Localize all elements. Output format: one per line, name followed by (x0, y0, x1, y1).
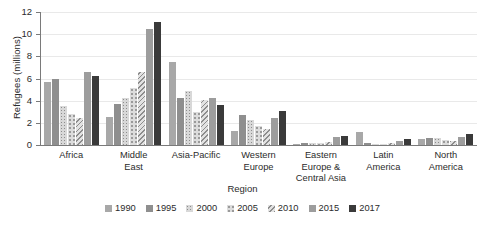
legend-label: 2015 (319, 203, 340, 213)
legend-label: 2017 (359, 203, 380, 213)
bar-group (40, 12, 102, 145)
bar-2015 (458, 137, 465, 145)
bar-chart: Refugees (millions) 024681012 AfricaMidd… (0, 0, 485, 229)
plot-area: 024681012 (40, 12, 477, 145)
x-axis-title: Region (0, 183, 485, 194)
bar-2010 (201, 100, 208, 145)
bar-1995 (52, 79, 59, 146)
bar-1995 (177, 98, 184, 145)
legend-item-2017[interactable]: 2017 (349, 203, 380, 213)
bar-group (352, 12, 414, 145)
legend-item-2010[interactable]: 2010 (268, 203, 299, 213)
bar-2015 (84, 72, 91, 145)
bar-2015 (396, 141, 403, 145)
bar-1990 (169, 62, 176, 145)
legend-label: 2005 (237, 203, 258, 213)
bar-2017 (217, 105, 224, 145)
bar-1990 (231, 131, 238, 145)
bar-2017 (466, 134, 473, 145)
x-axis-label: North America (415, 150, 477, 173)
x-axis-label: Eastern Europe & Central Asia (290, 150, 352, 185)
bar-2005 (380, 144, 387, 145)
bar-2005 (442, 140, 449, 145)
bar-2010 (388, 143, 395, 145)
y-axis-tick-label: 4 (10, 96, 32, 106)
legend-swatch-icon (349, 205, 356, 212)
chart-legend: 1990199520002005201020152017 (0, 203, 485, 213)
bar-2000 (309, 143, 316, 145)
bar-2010 (450, 141, 457, 145)
bar-1990 (44, 82, 51, 145)
bar-2000 (247, 120, 254, 145)
bar-1990 (356, 132, 363, 145)
bar-2005 (68, 114, 75, 145)
bar-2015 (209, 98, 216, 145)
bar-1995 (301, 143, 308, 145)
bar-2015 (333, 137, 340, 145)
bar-2000 (185, 91, 192, 145)
bar-2005 (317, 143, 324, 145)
bar-1995 (239, 115, 246, 145)
bar-group (227, 12, 289, 145)
bar-1995 (426, 138, 433, 145)
bar-2005 (255, 126, 262, 145)
bar-1995 (364, 143, 371, 145)
bar-2010 (263, 129, 270, 145)
legend-item-1990[interactable]: 1990 (105, 203, 136, 213)
legend-swatch-icon (227, 205, 234, 212)
legend-swatch-icon (146, 205, 153, 212)
bar-2017 (404, 139, 411, 145)
bar-2010 (138, 72, 145, 145)
bar-2015 (146, 29, 153, 145)
y-axis-tick (36, 145, 40, 146)
bar-2010 (325, 142, 332, 145)
x-axis-label: Latin America (352, 150, 414, 173)
y-axis-tick-label: 12 (10, 7, 32, 17)
bar-group (415, 12, 477, 145)
legend-swatch-icon (268, 205, 275, 212)
x-axis-label: Asia-Pacific (165, 150, 227, 162)
y-axis-tick-label: 8 (10, 52, 32, 62)
legend-label: 2000 (196, 203, 217, 213)
bar-1990 (293, 144, 300, 145)
y-axis-tick-label: 0 (10, 140, 32, 150)
bar-2017 (92, 76, 99, 145)
bar-2017 (154, 22, 161, 145)
bar-group (290, 12, 352, 145)
legend-item-1995[interactable]: 1995 (146, 203, 177, 213)
bar-2017 (341, 136, 348, 145)
y-axis-tick-label: 10 (10, 29, 32, 39)
legend-label: 2010 (278, 203, 299, 213)
legend-item-2015[interactable]: 2015 (309, 203, 340, 213)
legend-item-2000[interactable]: 2000 (186, 203, 217, 213)
x-axis-line (40, 145, 477, 146)
legend-label: 1995 (156, 203, 177, 213)
bar-2010 (76, 118, 83, 145)
bar-2017 (279, 111, 286, 145)
legend-swatch-icon (186, 205, 193, 212)
legend-swatch-icon (105, 205, 112, 212)
y-axis-tick-label: 2 (10, 118, 32, 128)
bar-2005 (193, 112, 200, 145)
bar-group (102, 12, 164, 145)
legend-swatch-icon (309, 205, 316, 212)
bar-1990 (106, 117, 113, 145)
bar-2000 (434, 138, 441, 145)
x-axis-label: Middle East (102, 150, 164, 173)
legend-item-2005[interactable]: 2005 (227, 203, 258, 213)
bar-2000 (60, 106, 67, 145)
bar-2000 (372, 144, 379, 145)
x-axis-label: Africa (40, 150, 102, 162)
y-axis-tick-label: 6 (10, 74, 32, 84)
bar-2000 (122, 98, 129, 145)
bar-1995 (114, 104, 121, 145)
bar-group (165, 12, 227, 145)
bar-2005 (130, 88, 137, 145)
bar-1990 (418, 139, 425, 145)
bar-2015 (271, 118, 278, 145)
x-axis-label: Western Europe (227, 150, 289, 173)
legend-label: 1990 (115, 203, 136, 213)
